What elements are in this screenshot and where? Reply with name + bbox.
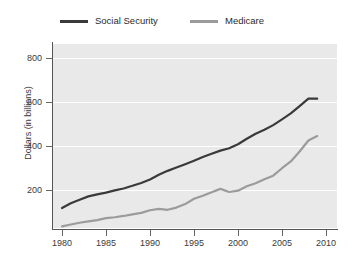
x-tick xyxy=(194,230,195,236)
chart-legend: Social Security Medicare xyxy=(0,12,352,30)
gridline xyxy=(53,102,337,103)
x-tick xyxy=(238,230,239,236)
x-tick-label: 2000 xyxy=(218,239,258,248)
x-tick-label: 1990 xyxy=(130,239,170,248)
y-tick xyxy=(46,190,52,191)
line-chart: Social Security Medicare 800 600 400 200… xyxy=(0,0,352,261)
x-tick-label: 1985 xyxy=(86,239,126,248)
plot-area xyxy=(53,44,337,228)
x-axis-line xyxy=(52,229,338,230)
gridline xyxy=(53,146,337,147)
x-tick-label: 1995 xyxy=(174,239,214,248)
y-tick-label: 400 xyxy=(2,142,42,151)
x-tick xyxy=(150,230,151,236)
legend-item-medicare: Medicare xyxy=(190,12,264,30)
legend-label-medicare: Medicare xyxy=(225,16,264,26)
legend-swatch-social-security xyxy=(60,20,88,23)
y-tick-label: 600 xyxy=(2,98,42,107)
x-tick-label: 2010 xyxy=(306,239,346,248)
legend-swatch-medicare xyxy=(190,20,218,23)
y-axis-line xyxy=(52,42,53,230)
x-tick xyxy=(62,230,63,236)
gridline xyxy=(53,58,337,59)
y-tick xyxy=(46,146,52,147)
gridline xyxy=(53,190,337,191)
x-tick-label: 2005 xyxy=(262,239,302,248)
y-axis-title: Dollars (in billions) xyxy=(23,48,33,198)
x-tick xyxy=(282,230,283,236)
y-tick-label: 200 xyxy=(2,186,42,195)
x-tick-label: 1980 xyxy=(42,239,82,248)
y-tick xyxy=(46,102,52,103)
legend-label-social-security: Social Security xyxy=(95,16,158,26)
legend-item-social-security: Social Security xyxy=(60,12,158,30)
x-tick xyxy=(106,230,107,236)
y-tick xyxy=(46,58,52,59)
x-tick xyxy=(326,230,327,236)
y-tick-label: 800 xyxy=(2,54,42,63)
